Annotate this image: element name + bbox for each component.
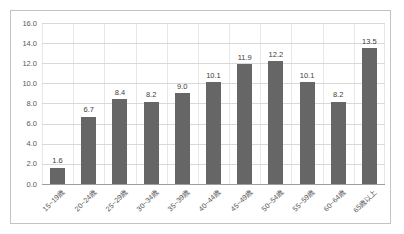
x-axis-tick-label: 15~19歳 <box>40 187 66 213</box>
x-axis-tick-label: 50~54歳 <box>259 187 285 213</box>
bar-value-label: 13.5 <box>354 37 384 46</box>
x-axis-tick-label: 60~64歳 <box>321 187 347 213</box>
y-axis-tick-label: 4.0 <box>11 139 37 148</box>
x-axis-tick-label: 30~34歳 <box>134 187 160 213</box>
bar-value-label: 12.2 <box>261 50 291 59</box>
bar-value-label: 10.1 <box>199 71 229 80</box>
gridline-horizontal <box>42 23 385 24</box>
bar <box>50 168 65 184</box>
x-axis-tick-label: 45~49歳 <box>227 187 253 213</box>
y-axis-tick-label: 12.0 <box>11 59 37 68</box>
x-axis-tick-label: 35~39歳 <box>165 187 191 213</box>
y-axis-tick-label: 2.0 <box>11 159 37 168</box>
bar <box>206 82 221 184</box>
gridline-horizontal <box>42 43 385 44</box>
bar-value-label: 10.1 <box>292 71 322 80</box>
x-axis-tick-label: 55~59歳 <box>290 187 316 213</box>
bar-value-label: 9.0 <box>167 82 197 91</box>
gridline-horizontal <box>42 63 385 64</box>
bar <box>81 117 96 184</box>
y-axis-tick-label: 6.0 <box>11 119 37 128</box>
bar-value-label: 6.7 <box>74 105 104 114</box>
bar-value-label: 11.9 <box>230 53 260 62</box>
bar-value-label: 8.2 <box>136 90 166 99</box>
bar <box>331 102 346 185</box>
y-axis-tick-label: 8.0 <box>11 99 37 108</box>
bar <box>144 102 159 185</box>
y-axis-tick-label: 10.0 <box>11 79 37 88</box>
bar <box>300 82 315 184</box>
bar <box>268 61 283 184</box>
bar <box>175 93 190 184</box>
y-axis-tick-label: 0.0 <box>11 180 37 189</box>
chart-frame: 1.66.78.48.29.010.111.912.210.18.213.5 0… <box>10 10 391 224</box>
x-axis-tick-label: 65歳以上 <box>351 187 379 215</box>
bar <box>362 48 377 184</box>
x-axis-tick-label: 25~29歳 <box>103 187 129 213</box>
bar <box>112 99 127 184</box>
bar-value-label: 8.4 <box>105 88 135 97</box>
bar-value-label: 8.2 <box>323 90 353 99</box>
x-axis-tick-label: 20~24歳 <box>72 187 98 213</box>
y-axis-tick-label: 16.0 <box>11 19 37 28</box>
bar <box>237 64 252 184</box>
plot-area: 1.66.78.48.29.010.111.912.210.18.213.5 <box>42 23 385 185</box>
y-axis-tick-label: 14.0 <box>11 39 37 48</box>
x-axis-tick-label: 40~44歳 <box>196 187 222 213</box>
bar-value-label: 1.6 <box>43 156 73 165</box>
